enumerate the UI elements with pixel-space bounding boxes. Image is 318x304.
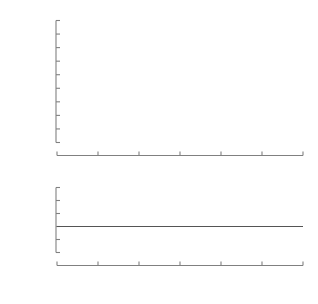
residual-y-ticks — [56, 188, 60, 253]
top-y-ticks — [56, 21, 60, 143]
chart-svg — [0, 0, 318, 304]
figure-container — [0, 0, 318, 304]
residual-x-ticks — [57, 262, 303, 266]
residual-plot-panel — [56, 188, 303, 266]
scatter-plot-panel — [0, 0, 303, 156]
top-x-ticks — [57, 152, 303, 156]
